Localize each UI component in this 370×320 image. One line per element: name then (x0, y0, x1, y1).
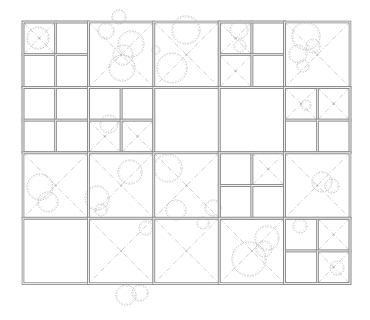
center-dot (38, 37, 40, 39)
tree-icon (172, 16, 200, 44)
sub-plot (56, 22, 89, 55)
tree-icon-inner (295, 221, 306, 232)
tree-icon (232, 242, 266, 276)
center-dot (186, 250, 188, 252)
sub-plot-inner (219, 186, 252, 219)
plot-grid (23, 22, 350, 284)
center-dot (104, 136, 106, 138)
center-dot (333, 103, 335, 105)
sub-plot (252, 22, 285, 55)
tree-icon-inner (120, 33, 143, 56)
tree-icon (109, 55, 135, 81)
sub-plot (56, 55, 89, 88)
tree-icon (330, 261, 344, 275)
sub-plot (23, 87, 56, 120)
tree-icon-inner (156, 156, 181, 181)
tree-icon-inner (100, 25, 113, 38)
tree-icon-inner (199, 219, 208, 228)
tree-icon (230, 21, 248, 39)
tree-icon (27, 174, 53, 200)
center-dot (186, 54, 188, 56)
sub-plot-inner (23, 55, 56, 88)
sub-plot-inner (23, 120, 56, 153)
tree-icon-inner (40, 194, 57, 211)
plot-cell (219, 87, 284, 152)
sub-plot (56, 120, 89, 153)
tree-icon-inner (258, 243, 271, 256)
sub-plot-inner (285, 120, 318, 153)
sub-plot-inner (88, 87, 121, 120)
sub-plot-inner (252, 186, 285, 219)
center-dot (333, 266, 335, 268)
tree-icon (118, 31, 144, 57)
sub-plot-inner (219, 153, 252, 186)
tree-icon (325, 179, 339, 193)
sub-plot (219, 186, 252, 219)
tree-icon-inner (303, 102, 310, 109)
sub-plot (219, 153, 252, 186)
tree-icon-inner (168, 202, 185, 219)
sub-plot (285, 251, 318, 284)
center-dot (267, 168, 269, 170)
sub-plot-inner (121, 87, 154, 120)
sub-plot (56, 87, 89, 120)
sub-plot-inner (56, 55, 89, 88)
tree-icon-inner (29, 176, 52, 199)
tree-icon (157, 53, 187, 83)
tree-icon-inner (115, 47, 132, 64)
tree-icon (132, 285, 148, 301)
tree-icon (234, 40, 246, 52)
tree-icon (27, 27, 49, 49)
tree-icon (255, 226, 279, 250)
sub-plot (252, 186, 285, 219)
sub-plot-inner (285, 218, 318, 251)
sub-plot (23, 55, 56, 88)
center-dot (316, 185, 318, 187)
sub-plot-inner (56, 120, 89, 153)
sub-plot-inner (56, 22, 89, 55)
tree-icon-inner (291, 47, 306, 62)
sub-plot-inner (56, 87, 89, 120)
sub-plot-inner (23, 87, 56, 120)
center-dot (186, 185, 188, 187)
sub-plot-inner (285, 251, 318, 284)
tree-icon (100, 115, 118, 133)
sub-plot (285, 120, 318, 153)
tree-icon (293, 219, 307, 233)
sub-plot-inner (252, 55, 285, 88)
center-dot (55, 185, 57, 187)
sub-plot (285, 218, 318, 251)
sub-plot (121, 87, 154, 120)
center-dot (120, 250, 122, 252)
sub-plot (88, 87, 121, 120)
sub-plot (252, 55, 285, 88)
sub-plot (317, 120, 350, 153)
tree-icon-inner (141, 223, 152, 234)
center-dot (235, 70, 237, 72)
tree-icon-inner (159, 55, 186, 82)
tree-icon (139, 221, 153, 235)
tree-icon-inner (257, 228, 278, 249)
tree-icon-inner (97, 206, 106, 215)
center-dot (120, 185, 122, 187)
tree-icon (116, 285, 136, 305)
plot-cell (154, 87, 219, 152)
tree-icon (118, 160, 142, 184)
plot-cell-inner (219, 87, 284, 152)
center-dot (333, 234, 335, 236)
tree-icon-inner (102, 117, 117, 132)
tree-icon-inner (29, 29, 48, 48)
plot-cell-inner (154, 87, 219, 152)
sub-plot-inner (252, 22, 285, 55)
center-dot (251, 250, 253, 252)
tree-icon-inner (120, 162, 141, 183)
sub-plot (23, 120, 56, 153)
center-dot (316, 54, 318, 56)
tree-icon (113, 45, 133, 65)
tree-icon (98, 23, 114, 39)
sub-plot-inner (317, 120, 350, 153)
plot-cell (23, 218, 88, 283)
plot-cell-inner (23, 218, 88, 283)
site-plan-diagram (0, 0, 370, 320)
tree-icon (312, 172, 332, 192)
